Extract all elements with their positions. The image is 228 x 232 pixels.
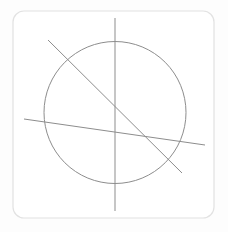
screenshot-canvas — [0, 0, 228, 232]
figure-card[interactable] — [13, 11, 214, 218]
geometric-figure — [0, 0, 228, 232]
